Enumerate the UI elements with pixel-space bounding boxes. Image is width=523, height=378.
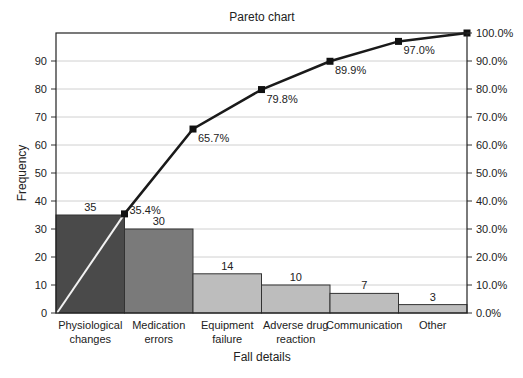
cumulative-label: 65.7% bbox=[198, 132, 229, 144]
y-tick-label: 30 bbox=[35, 223, 47, 235]
y-tick-label: 70 bbox=[35, 111, 47, 123]
x-tick-label: errors bbox=[144, 333, 173, 345]
y-tick-label: 0 bbox=[41, 307, 47, 319]
y2-tick-label: 70.0% bbox=[476, 111, 507, 123]
y2-tick-label: 100.0% bbox=[476, 27, 514, 39]
cumulative-label: 97.0% bbox=[404, 44, 435, 56]
y2-tick-label: 90.0% bbox=[476, 55, 507, 67]
y-tick-label: 50 bbox=[35, 167, 47, 179]
y2-tick-label: 30.0% bbox=[476, 223, 507, 235]
bar bbox=[193, 274, 262, 313]
bar-value-label: 30 bbox=[153, 215, 165, 227]
y2-tick-label: 0.0% bbox=[476, 307, 501, 319]
x-tick-label: Other bbox=[419, 319, 447, 331]
cumulative-label: 35.4% bbox=[130, 204, 161, 216]
y-tick-label: 10 bbox=[35, 279, 47, 291]
y-tick-label: 60 bbox=[35, 139, 47, 151]
bar bbox=[330, 293, 399, 313]
bar bbox=[262, 285, 331, 313]
y2-tick-label: 20.0% bbox=[476, 251, 507, 263]
bar-value-label: 3 bbox=[430, 291, 436, 303]
x-tick-label: Equipment bbox=[201, 319, 254, 331]
cumulative-polyline bbox=[125, 33, 468, 214]
bar bbox=[399, 305, 468, 313]
cumulative-label: 89.9% bbox=[335, 64, 366, 76]
x-axis-label: Fall details bbox=[233, 350, 290, 364]
x-tick-label: changes bbox=[69, 333, 111, 345]
bar-value-label: 35 bbox=[84, 201, 96, 213]
y-tick-label: 40 bbox=[35, 195, 47, 207]
y-tick-label: 80 bbox=[35, 83, 47, 95]
y-axis-label: Frequency bbox=[15, 145, 29, 202]
cumulative-marker bbox=[190, 126, 197, 133]
y2-tick-label: 80.0% bbox=[476, 83, 507, 95]
y2-tick-label: 40.0% bbox=[476, 195, 507, 207]
x-tick-label: failure bbox=[212, 333, 242, 345]
y2-tick-label: 60.0% bbox=[476, 139, 507, 151]
bar-value-label: 7 bbox=[361, 279, 367, 291]
cumulative-marker bbox=[327, 58, 334, 65]
y-tick-label: 90 bbox=[35, 55, 47, 67]
x-tick-label: Communication bbox=[326, 319, 402, 331]
cumulative-marker bbox=[121, 210, 128, 217]
y2-tick-label: 50.0% bbox=[476, 167, 507, 179]
y2-tick-label: 10.0% bbox=[476, 279, 507, 291]
cumulative-label: 79.8% bbox=[267, 93, 298, 105]
cumulative-marker bbox=[258, 86, 265, 93]
x-tick-label: Medication bbox=[132, 319, 185, 331]
pareto-chart: Pareto chart 3530141073 35.4%65.7%79.8%8… bbox=[0, 0, 523, 378]
bar-value-label: 14 bbox=[221, 260, 233, 272]
bar-value-label: 10 bbox=[290, 271, 302, 283]
bar bbox=[125, 229, 194, 313]
x-tick-label: Physiological bbox=[58, 319, 122, 331]
cumulative-marker bbox=[395, 38, 402, 45]
y-tick-label: 20 bbox=[35, 251, 47, 263]
x-tick-label: reaction bbox=[276, 333, 315, 345]
x-tick-label: Adverse drug bbox=[263, 319, 328, 331]
chart-title: Pareto chart bbox=[229, 10, 295, 24]
